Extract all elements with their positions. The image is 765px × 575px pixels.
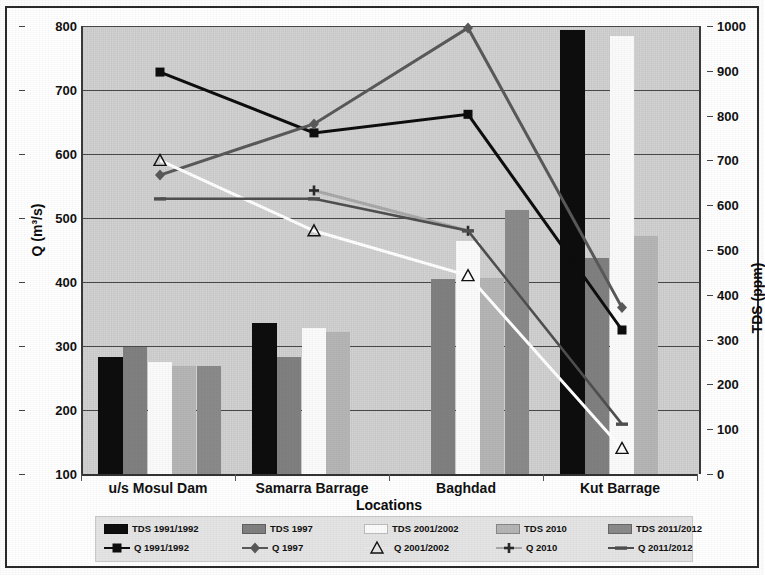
x-axis-title: Locations	[356, 497, 422, 513]
legend-item-tds-2010[interactable]: TDS 2010	[496, 523, 567, 534]
x-axis-tick	[235, 474, 236, 481]
x-axis-category-label: Kut Barrage	[580, 480, 660, 496]
data-point-marker	[250, 542, 260, 553]
right-axis-tick	[707, 160, 713, 161]
x-axis-tick	[81, 474, 82, 481]
legend-item-tds-1997[interactable]: TDS 1997	[242, 523, 313, 534]
right-axis-tick-label: 700	[717, 153, 739, 168]
right-axis: 01002003004005006007008009001000	[707, 26, 763, 474]
legend-swatch-icon	[364, 524, 388, 534]
left-axis-tick	[19, 410, 25, 411]
legend-item-q-1991-1992[interactable]: Q 1991/1992	[104, 542, 189, 553]
left-axis-tick-label: 700	[55, 83, 77, 98]
data-point-marker	[371, 542, 383, 553]
data-point-marker	[113, 543, 122, 552]
x-axis-tick	[543, 474, 544, 481]
legend-line-icon	[608, 543, 634, 553]
left-axis-tick-label: 500	[55, 211, 77, 226]
legend-line-icon	[496, 543, 522, 553]
right-axis-tick	[707, 26, 713, 27]
right-axis-title: TDS (ppm)	[749, 263, 765, 334]
left-axis-tick-label: 400	[55, 275, 77, 290]
legend-label: TDS 1997	[270, 523, 313, 534]
right-axis-tick	[707, 205, 713, 206]
series-line	[160, 160, 622, 448]
data-point-marker	[616, 422, 628, 425]
legend-swatch-icon	[608, 524, 632, 534]
legend-label: Q 2010	[526, 542, 557, 553]
legend-item-q-2001-2002[interactable]: Q 2001/2002	[364, 542, 449, 553]
left-axis-tick-label: 800	[55, 19, 77, 34]
x-axis-category-label: Samarra Barrage	[256, 480, 369, 496]
right-axis-tick	[707, 474, 713, 475]
right-axis-tick	[707, 340, 713, 341]
legend-line-icon	[364, 543, 390, 553]
left-axis-tick-label: 100	[55, 467, 77, 482]
right-axis-tick-label: 100	[717, 422, 739, 437]
legend-line-icon	[104, 543, 130, 553]
legend-label: Q 2001/2002	[394, 542, 449, 553]
legend-item-tds-2011-2012[interactable]: TDS 2011/2012	[608, 523, 702, 534]
right-axis-tick	[707, 429, 713, 430]
data-point-marker	[155, 170, 165, 181]
data-point-marker	[462, 229, 474, 232]
right-axis-tick	[707, 384, 713, 385]
legend-swatch-icon	[242, 524, 266, 534]
legend-item-q-1997[interactable]: Q 1997	[242, 542, 303, 553]
data-point-marker	[309, 185, 319, 195]
right-axis-tick-label: 500	[717, 243, 739, 258]
legend-swatch-icon	[104, 524, 128, 534]
right-axis-tick	[707, 295, 713, 296]
x-axis-tick	[697, 474, 698, 481]
left-axis-tick-label: 600	[55, 147, 77, 162]
data-point-marker	[308, 197, 320, 200]
legend-label: TDS 2011/2012	[636, 523, 702, 534]
right-axis-tick-label: 900	[717, 63, 739, 78]
chart-legend: TDS 1991/1992TDS 1997TDS 2001/2002TDS 20…	[95, 516, 693, 562]
right-axis-tick-label: 0	[717, 467, 724, 482]
data-point-marker	[618, 326, 627, 335]
data-point-marker	[464, 110, 473, 119]
data-point-marker	[156, 68, 165, 77]
legend-row-q: Q 1991/1992Q 1997Q 2001/2002Q 2010Q 2011…	[96, 540, 692, 558]
left-axis-tick	[19, 26, 25, 27]
legend-item-q-2011-2012[interactable]: Q 2011/2012	[608, 542, 692, 553]
legend-label: TDS 2010	[524, 523, 567, 534]
left-axis-tick	[19, 474, 25, 475]
data-point-marker	[615, 546, 627, 549]
data-point-marker	[154, 197, 166, 200]
legend-label: Q 1997	[272, 542, 303, 553]
left-axis-title: Q (m³/s)	[29, 204, 45, 257]
x-axis-category-label: u/s Mosul Dam	[109, 480, 208, 496]
left-axis-tick	[19, 90, 25, 91]
legend-item-q-2010[interactable]: Q 2010	[496, 542, 557, 553]
right-axis-tick	[707, 71, 713, 72]
legend-item-tds-1991-1992[interactable]: TDS 1991/1992	[104, 523, 199, 534]
series-line	[160, 28, 622, 308]
right-axis-tick	[707, 116, 713, 117]
legend-swatch-icon	[496, 524, 520, 534]
right-axis-tick-label: 400	[717, 287, 739, 302]
legend-label: TDS 1991/1992	[132, 523, 199, 534]
legend-row-tds: TDS 1991/1992TDS 1997TDS 2001/2002TDS 20…	[96, 521, 692, 539]
line-layer	[83, 26, 699, 474]
left-axis-tick-label: 300	[55, 339, 77, 354]
legend-item-tds-2001-2002[interactable]: TDS 2001/2002	[364, 523, 459, 534]
right-axis-tick-label: 1000	[717, 19, 746, 34]
right-axis-tick-label: 600	[717, 198, 739, 213]
chart-figure: 100200300400500600700800 Q (m³/s) u/s Mo…	[5, 6, 759, 568]
data-point-marker	[504, 543, 514, 553]
right-axis-tick-label: 800	[717, 108, 739, 123]
plot-area	[81, 26, 701, 474]
left-axis-tick-label: 200	[55, 403, 77, 418]
x-axis-tick	[389, 474, 390, 481]
legend-line-icon	[242, 543, 268, 553]
left-axis-tick	[19, 154, 25, 155]
right-axis-tick-label: 300	[717, 332, 739, 347]
right-axis-tick-label: 200	[717, 377, 739, 392]
x-axis-category-label: Baghdad	[436, 480, 496, 496]
series-line	[160, 72, 622, 330]
data-point-marker	[310, 128, 319, 137]
left-axis-tick	[19, 218, 25, 219]
